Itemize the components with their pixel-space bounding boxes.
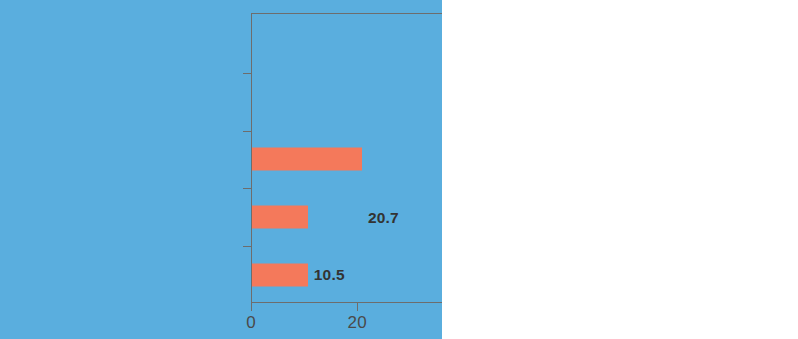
bar-apply-for-bankruptcy bbox=[252, 206, 308, 229]
y-axis-tick-1 bbox=[243, 73, 252, 74]
y-axis-tick-4 bbox=[243, 246, 252, 247]
x-axis-tick-20 bbox=[357, 303, 358, 311]
y-axis-tick-3 bbox=[243, 188, 252, 189]
y-axis-tick-2 bbox=[243, 131, 252, 132]
bar-chart: Temporarily close business Lay off staff… bbox=[0, 0, 442, 339]
value-label-sell-the-business: 10.5 bbox=[314, 266, 345, 284]
bar-reduce-wage-and-salary bbox=[252, 148, 362, 171]
x-axis-label-0: 0 bbox=[246, 313, 256, 333]
value-label-apply-for-bankruptcy: 20.7 bbox=[368, 209, 399, 227]
x-axis-label-20: 20 bbox=[348, 313, 367, 333]
bar-temporarily-close-business bbox=[252, 33, 442, 56]
bar-lay-off-staff bbox=[252, 91, 442, 114]
x-axis-tick-0 bbox=[251, 303, 252, 311]
bar-sell-the-business bbox=[252, 263, 308, 286]
